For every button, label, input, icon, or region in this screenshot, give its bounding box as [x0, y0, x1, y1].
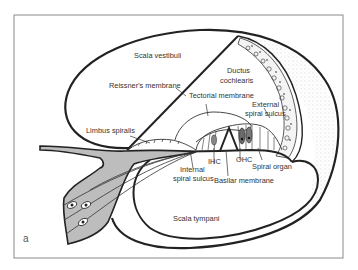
scala-tympani-outline	[134, 160, 319, 239]
label-scala-tympani: Scala tympani	[173, 215, 219, 224]
inner-hair-cell	[212, 135, 217, 145]
label-ductus-cochlearis-line1: Ductus	[227, 67, 250, 76]
tunnel-of-corti	[220, 128, 238, 151]
outer-hair-cells	[239, 127, 252, 144]
label-spiral-organ: Spiral organ	[252, 163, 292, 172]
label-tectorial-membrane: Tectorial membrane	[189, 92, 254, 101]
cochlea-diagram-svg	[0, 0, 358, 270]
label-ohc: OHC	[236, 156, 252, 165]
label-basilar-membrane: Basilar membrane	[214, 177, 274, 186]
label-reissners-membrane: Reissner's membrane	[109, 82, 181, 91]
panel-letter: a	[23, 233, 29, 244]
label-external-spiral-sulcus-line2: spiral sulcus	[245, 110, 286, 119]
cochlea-cross-section-figure: Scala vestibuli Reissner's membrane Duct…	[0, 0, 358, 270]
label-ihc: IHC	[208, 158, 221, 167]
label-scala-vestibuli: Scala vestibuli	[134, 52, 181, 61]
label-internal-spiral-sulcus-line2: spiral sulcus	[173, 175, 214, 184]
label-limbus-spiralis: Limbus spiralis	[86, 127, 135, 136]
label-ductus-cochlearis-line2: cochlearis	[220, 77, 253, 86]
